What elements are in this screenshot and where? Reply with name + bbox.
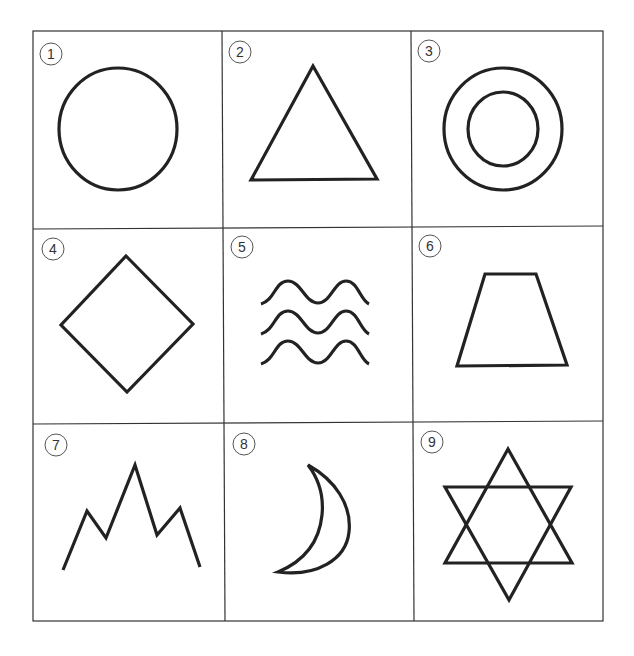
grid-vline-2 [411, 31, 414, 621]
cell-number-5: 5 [238, 239, 246, 255]
cell-7: 7 [45, 434, 200, 570]
cell-9: 9 [421, 431, 572, 600]
cell-number-4: 4 [49, 241, 57, 257]
cell-2: 2 [229, 41, 377, 180]
trapezoid-icon [457, 274, 567, 366]
six-pointed-star-icon [445, 449, 572, 600]
grid-hline-1 [33, 226, 603, 229]
cell-3: 3 [418, 40, 562, 190]
cell-number-2: 2 [236, 44, 244, 60]
inner-circle-icon [468, 92, 538, 166]
cell-4: 4 [42, 238, 193, 392]
mountains-icon [63, 465, 200, 570]
outer-circle-icon [444, 68, 562, 190]
cell-number-3: 3 [425, 43, 433, 59]
cell-1: 1 [40, 43, 177, 190]
cell-6: 6 [419, 235, 567, 366]
shape-grid: 1 2 3 4 5 6 7 [0, 0, 634, 656]
cell-number-9: 9 [428, 434, 436, 450]
diamond-icon [61, 256, 193, 392]
grid-hline-2 [33, 421, 603, 424]
cell-number-6: 6 [426, 238, 434, 254]
cell-number-1: 1 [47, 46, 55, 62]
cell-number-7: 7 [52, 437, 60, 453]
waves-icon [261, 281, 369, 364]
cell-8: 8 [233, 433, 349, 573]
grid-vline-1 [222, 31, 225, 621]
crescent-moon-icon [278, 465, 349, 573]
triangle-icon [251, 66, 377, 180]
circle-icon [59, 68, 177, 190]
cell-number-8: 8 [240, 436, 248, 452]
cell-5: 5 [231, 236, 369, 364]
